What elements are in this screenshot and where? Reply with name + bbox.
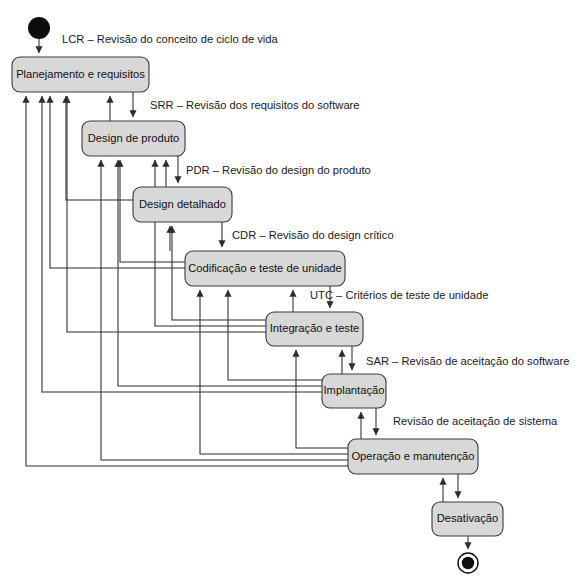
state-label: Operação e manutenção	[351, 450, 474, 462]
state-design-detalhado[interactable]: Design detalhado	[133, 187, 232, 222]
state-planejamento-e-requisitos[interactable]: Planejamento e requisitos	[12, 57, 149, 92]
state-implantacao[interactable]: Implantação	[322, 374, 386, 408]
state-label: Desativação	[437, 512, 499, 524]
state-label: Design detalhado	[139, 198, 226, 210]
state-label: Integração e teste	[270, 322, 360, 334]
transition-label-lcr: LCR – Revisão do conceito de ciclo de vi…	[62, 33, 279, 45]
state-label: Implantação	[324, 384, 385, 396]
transition-label-srr: SRR – Revisão dos requisitos do software	[150, 99, 360, 111]
state-integracao-e-teste[interactable]: Integração e teste	[266, 312, 363, 346]
initial-state-node[interactable]	[28, 17, 50, 39]
final-state-node[interactable]	[458, 553, 478, 573]
transition-label-pdr: PDR – Revisão do design do produto	[186, 164, 371, 176]
state-label: Design de produto	[88, 132, 179, 144]
state-label: Codificação e teste de unidade	[188, 262, 342, 274]
state-design-de-produto[interactable]: Design de produto	[82, 121, 185, 156]
transition-label-cdr: CDR – Revisão do design crítico	[232, 229, 394, 241]
state-codificacao-e-teste-de-unidade[interactable]: Codificação e teste de unidade	[185, 251, 345, 286]
state-operacao-e-manutencao[interactable]: Operação e manutenção	[348, 439, 478, 474]
state-desativacao[interactable]: Desativação	[432, 502, 503, 536]
transition-label-system-acceptance: Revisão de aceitação de sistema	[393, 415, 558, 427]
state-label: Planejamento e requisitos	[16, 68, 145, 80]
transition-label-sar: SAR – Revisão de aceitação do software	[366, 355, 569, 367]
diagram-canvas: Planejamento e requisitos Design de prod…	[0, 0, 575, 584]
transition-label-utc: UTC – Critérios de teste de unidade	[310, 289, 488, 301]
state-machine-diagram: Planejamento e requisitos Design de prod…	[0, 0, 575, 584]
figure-caption-strip	[0, 572, 575, 584]
